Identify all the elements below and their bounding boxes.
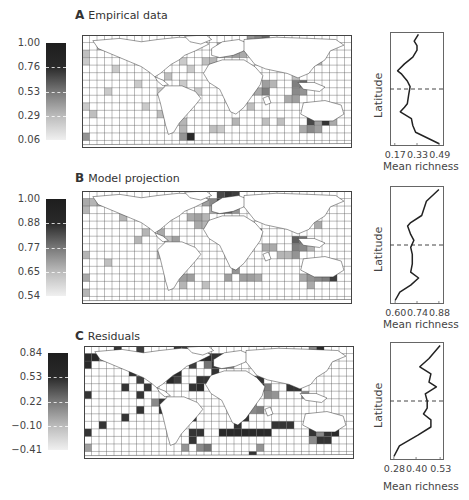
grid-cell bbox=[180, 125, 188, 133]
grid-cell bbox=[187, 65, 195, 73]
grid-cell bbox=[82, 251, 90, 259]
grid-cell bbox=[187, 274, 195, 282]
grid-cell bbox=[189, 436, 197, 444]
grid-cell bbox=[182, 444, 190, 452]
grid-cell bbox=[292, 236, 300, 244]
grid-cell bbox=[84, 444, 92, 452]
grid-cell bbox=[105, 259, 113, 267]
grid-cell bbox=[197, 384, 205, 392]
profile-xtick-label: 0.40 bbox=[406, 463, 427, 474]
profile-xtick-label: 0.60 bbox=[385, 307, 406, 318]
grid-cell bbox=[255, 274, 263, 282]
grid-cell bbox=[82, 103, 90, 111]
grid-cell bbox=[174, 376, 182, 384]
grid-cell bbox=[292, 88, 300, 96]
profile-xtick-label: 0.53 bbox=[430, 463, 451, 474]
profile-b-xlabel: Mean richness bbox=[383, 318, 459, 330]
grid-cell bbox=[82, 58, 90, 66]
grid-cell bbox=[84, 429, 92, 437]
grid-cell bbox=[307, 281, 315, 289]
grid-cell bbox=[82, 50, 90, 58]
profile-xtick-label: 0.49 bbox=[429, 149, 450, 160]
grid-cell bbox=[270, 80, 278, 88]
profile-xtick-label: 0.88 bbox=[429, 307, 450, 318]
colorbar-tick-label: 0.76 bbox=[2, 61, 40, 72]
grid-cell bbox=[189, 429, 197, 437]
grid-cell bbox=[249, 429, 257, 437]
grid-cell bbox=[262, 118, 270, 126]
grid-cell bbox=[242, 429, 250, 437]
grid-cell bbox=[292, 95, 300, 103]
grid-cell bbox=[135, 236, 143, 244]
grid-cell bbox=[202, 58, 210, 66]
panel-b-title: BModel projection bbox=[75, 171, 180, 185]
latitude-profile-b bbox=[390, 186, 444, 304]
grid-cell bbox=[227, 429, 235, 437]
grid-cell bbox=[84, 354, 92, 362]
profile-xtick-label: 0.28 bbox=[384, 463, 405, 474]
grid-cell bbox=[202, 214, 210, 222]
grid-cell bbox=[122, 384, 130, 392]
grid-cell bbox=[247, 274, 255, 282]
profile-a-xlabel: Mean richness bbox=[383, 160, 459, 172]
colorbar-tick-label: 0.77 bbox=[2, 242, 40, 253]
grid-cell bbox=[137, 391, 145, 399]
grid-cell bbox=[272, 391, 280, 399]
grid-cell bbox=[292, 80, 300, 88]
grid-cell bbox=[287, 421, 295, 429]
grid-cell bbox=[189, 384, 197, 392]
colorbar-tick-label: 0.53 bbox=[2, 86, 40, 97]
grid-cell bbox=[82, 206, 90, 214]
grid-cell bbox=[105, 88, 113, 96]
colorbar-tick-label: 0.29 bbox=[2, 110, 40, 121]
grid-cell bbox=[197, 429, 205, 437]
profile-b-ylabel: Latitude bbox=[372, 227, 385, 272]
grid-cell bbox=[264, 391, 272, 399]
colorbar-tick-label: 0.88 bbox=[2, 217, 40, 228]
colorbar-tick-label: 0.53 bbox=[4, 371, 42, 382]
panel-a-title: AEmpirical data bbox=[75, 8, 168, 22]
colorbar-tick-label: 0.84 bbox=[4, 347, 42, 358]
colorbar-tick-label: −0.41 bbox=[4, 444, 42, 455]
grid-cell bbox=[135, 80, 143, 88]
profile-c-xlabel: Mean richness bbox=[383, 480, 459, 492]
grid-cell bbox=[112, 65, 120, 73]
grid-cell bbox=[219, 429, 227, 437]
grid-cell bbox=[84, 361, 92, 369]
world-map-b bbox=[82, 191, 352, 304]
grid-cell bbox=[197, 376, 205, 384]
grid-cell bbox=[84, 391, 92, 399]
world-map-c bbox=[84, 346, 354, 459]
grid-cell bbox=[315, 125, 323, 133]
colorbar-tick-label: −0.10 bbox=[4, 420, 42, 431]
grid-cell bbox=[307, 125, 315, 133]
grid-cell bbox=[82, 133, 90, 141]
grid-cell bbox=[272, 421, 280, 429]
colorbar-tick-label: 1.00 bbox=[2, 193, 40, 204]
grid-cell bbox=[225, 274, 233, 282]
grid-cell bbox=[262, 244, 270, 252]
colorbar-tick-label: 1.00 bbox=[2, 37, 40, 48]
world-map-a bbox=[82, 35, 352, 148]
grid-cell bbox=[285, 95, 293, 103]
grid-cell bbox=[309, 436, 317, 444]
grid-cell bbox=[292, 244, 300, 252]
grid-cell bbox=[217, 125, 225, 133]
profile-xtick-label: 0.74 bbox=[407, 307, 428, 318]
grid-cell bbox=[300, 125, 308, 133]
grid-cell bbox=[324, 436, 332, 444]
grid-cell bbox=[99, 421, 107, 429]
grid-cell bbox=[204, 361, 212, 369]
grid-cell bbox=[317, 436, 325, 444]
grid-cell bbox=[315, 221, 323, 229]
grid-cell bbox=[187, 133, 195, 141]
grid-cell bbox=[82, 289, 90, 297]
grid-cell bbox=[264, 429, 272, 437]
colorbar-tick-label: 0.06 bbox=[2, 134, 40, 145]
grid-cell bbox=[292, 251, 300, 259]
grid-cell bbox=[247, 103, 255, 111]
grid-cell bbox=[82, 274, 90, 282]
profile-xtick-label: 0.17 bbox=[385, 149, 406, 160]
grid-cell bbox=[82, 199, 90, 207]
grid-cell bbox=[257, 406, 265, 414]
